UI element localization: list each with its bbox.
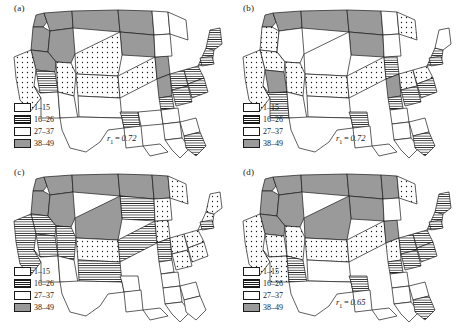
legend-swatch-38-49 <box>243 139 260 148</box>
stat-annotation-d: r1 = 0.65 <box>336 297 365 309</box>
stat-annotation-a: r1 = 0.72 <box>107 133 136 145</box>
legend-label-38-49: 38–49 <box>263 139 283 148</box>
figure-panel-grid: (a) <box>0 0 457 328</box>
legend-label-38-49: 38–49 <box>263 303 283 312</box>
legend-row: 16–26 <box>243 114 283 125</box>
legend-label-38-49: 38–49 <box>34 303 54 312</box>
legend-label-16-26: 16–26 <box>34 115 54 124</box>
stat-annotation-b: r1 = 0.72 <box>336 133 365 145</box>
legend-row: 1–15 <box>14 266 54 277</box>
legend-label-27-37: 27–37 <box>34 127 54 136</box>
panel-a: (a) <box>0 0 228 164</box>
legend-swatch-1-15 <box>243 103 260 112</box>
legend-swatch-16-26 <box>14 279 31 288</box>
legend-swatch-27-37 <box>14 127 31 136</box>
legend-label-16-26: 16–26 <box>34 279 54 288</box>
panel-c: (c) <box>0 164 228 328</box>
legend-label-16-26: 16–26 <box>263 279 283 288</box>
legend-row: 16–26 <box>14 278 54 289</box>
legend-row: 1–15 <box>14 102 54 113</box>
legend-label-1-15: 1–15 <box>263 267 279 276</box>
legend-row: 1–15 <box>243 266 283 277</box>
legend-swatch-38-49 <box>243 303 260 312</box>
legend-row: 27–37 <box>14 126 54 137</box>
legend-row: 38–49 <box>243 138 283 149</box>
legend-row: 38–49 <box>243 302 283 313</box>
legend-label-1-15: 1–15 <box>34 103 50 112</box>
legend-row: 16–26 <box>14 114 54 125</box>
legend-a: 1–15 16–26 27–37 38–49 <box>14 102 54 150</box>
panel-d: (d) <box>229 164 457 328</box>
legend-label-16-26: 16–26 <box>263 115 283 124</box>
legend-swatch-1-15 <box>243 267 260 276</box>
legend-swatch-27-37 <box>14 291 31 300</box>
legend-row: 38–49 <box>14 138 54 149</box>
legend-label-1-15: 1–15 <box>263 103 279 112</box>
legend-swatch-1-15 <box>14 103 31 112</box>
legend-swatch-38-49 <box>14 139 31 148</box>
legend-row: 27–37 <box>243 126 283 137</box>
legend-label-27-37: 27–37 <box>263 291 283 300</box>
legend-swatch-16-26 <box>243 115 260 124</box>
legend-label-27-37: 27–37 <box>263 127 283 136</box>
legend-c: 1–15 16–26 27–37 38–49 <box>14 266 54 314</box>
legend-row: 38–49 <box>14 302 54 313</box>
legend-label-38-49: 38–49 <box>34 139 54 148</box>
legend-label-27-37: 27–37 <box>34 291 54 300</box>
legend-swatch-27-37 <box>243 127 260 136</box>
legend-row: 27–37 <box>243 290 283 301</box>
legend-row: 16–26 <box>243 278 283 289</box>
legend-swatch-16-26 <box>14 115 31 124</box>
legend-row: 1–15 <box>243 102 283 113</box>
panel-b: (b) <box>229 0 457 164</box>
legend-swatch-16-26 <box>243 279 260 288</box>
legend-label-1-15: 1–15 <box>34 267 50 276</box>
legend-row: 27–37 <box>14 290 54 301</box>
legend-b: 1–15 16–26 27–37 38–49 <box>243 102 283 150</box>
legend-swatch-38-49 <box>14 303 31 312</box>
legend-d: 1–15 16–26 27–37 38–49 <box>243 266 283 314</box>
legend-swatch-27-37 <box>243 291 260 300</box>
legend-swatch-1-15 <box>14 267 31 276</box>
